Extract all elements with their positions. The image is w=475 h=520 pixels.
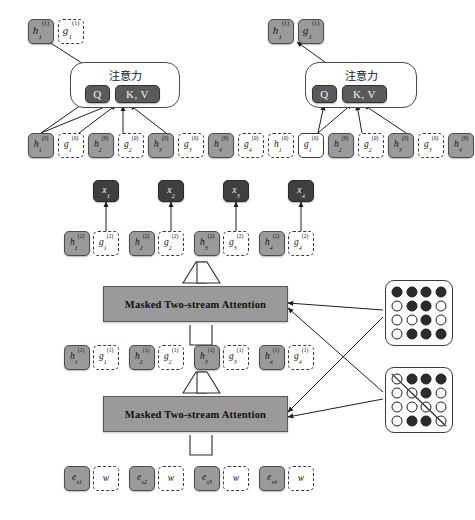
masked-two-stream-attention-lower[interactable]: Masked Two-stream Attention: [103, 396, 288, 432]
mask-dot-filled-icon: [421, 301, 432, 312]
query-out-g1: g1(1): [298, 19, 324, 44]
query-in-h4: h4(0): [448, 133, 474, 158]
mask-dot-empty-icon: [435, 315, 446, 326]
mask-cell-r1-c3: [420, 286, 433, 298]
mask-cell-r3-c1: [391, 314, 404, 326]
layer2-h2: h2(2): [129, 231, 155, 256]
query-mask-grid: [391, 373, 447, 427]
mask-cell-r3-c4: [435, 314, 448, 326]
mask-cell-r4-c1: [391, 328, 404, 340]
mask-dot-filled-icon: [406, 329, 417, 340]
mask-dot-empty-icon: [406, 402, 417, 413]
content-mask-grid: [391, 286, 447, 340]
mask-cell-r3-c1: [391, 401, 404, 413]
content-kv-box: K, V: [115, 85, 160, 103]
mask-dot-filled-icon: [421, 329, 432, 340]
query-in-h3: h3(0): [388, 133, 414, 158]
mask-cell-r3-c2: [406, 401, 419, 413]
mask-cell-r1-c3: [420, 373, 433, 385]
masked-two-stream-attention-upper[interactable]: Masked Two-stream Attention: [103, 286, 288, 322]
layer2-g4: g4(2): [288, 231, 314, 256]
layer1-h3: h3(1): [194, 345, 220, 370]
query-in-h1: h1(0): [268, 133, 294, 158]
embedding-w-4: w: [288, 466, 314, 491]
mask-cell-r2-c3: [420, 300, 433, 312]
layer1-g3: g3(1): [223, 345, 249, 370]
layer2-h3: h3(2): [194, 231, 220, 256]
mask-cell-r4-c2: [406, 328, 419, 340]
mask-dot-filled-icon: [421, 315, 432, 326]
content-in-h4: h4(0): [208, 133, 234, 158]
layer2-g1: g1(2): [93, 231, 119, 256]
mask-cell-r2-c2: [406, 387, 419, 399]
mask-cell-r1-c4: [435, 373, 448, 385]
mask-cell-r4-c2: [406, 415, 419, 427]
layer1-g1: g1(1): [93, 345, 119, 370]
layer1-h2: h2(1): [129, 345, 155, 370]
mask-dot-filled-icon: [421, 374, 432, 385]
query-in-g3: g3(0): [418, 133, 444, 158]
output-token-x2: x2: [158, 180, 184, 202]
mask-cell-r2-c3: [420, 387, 433, 399]
mask-cell-r3-c3: [420, 314, 433, 326]
content-stream-mask[interactable]: [385, 280, 453, 346]
mask-dot-filled-icon: [421, 287, 432, 298]
content-in-g1: g1(0): [58, 133, 84, 158]
mask-cell-r1-c1: [391, 373, 404, 385]
mask-dot-empty-icon: [435, 301, 446, 312]
mask-dot-empty-icon: [392, 416, 403, 427]
query-q-box: Q: [312, 85, 337, 103]
mask-cell-r4-c4: [435, 415, 448, 427]
mask-dot-empty-icon: [392, 388, 403, 399]
mask-dot-filled-icon: [406, 416, 417, 427]
figure-canvas: 注意力 Q K, V h1(1) g1(1) h1(0) g1(0) h2(0)…: [0, 0, 475, 520]
mask-dot-empty-icon: [392, 402, 403, 413]
content-in-g4: g4(0): [238, 133, 264, 158]
mask-cell-r2-c4: [435, 387, 448, 399]
embedding-e-x2: ex2: [129, 466, 155, 491]
mask-cell-r3-c4: [435, 401, 448, 413]
mask-cell-r2-c4: [435, 300, 448, 312]
output-token-x3: x3: [223, 180, 249, 202]
mask-cell-r4-c3: [420, 328, 433, 340]
query-stream-mask[interactable]: [385, 367, 453, 433]
mask-cell-r2-c1: [391, 387, 404, 399]
query-attention-label: 注意力: [305, 67, 417, 83]
layer1-g2: g2(1): [158, 345, 184, 370]
mask-dot-filled-icon: [392, 287, 403, 298]
content-attention-label: 注意力: [70, 67, 180, 83]
mask-dot-empty-icon: [421, 402, 432, 413]
layer2-g2: g2(2): [158, 231, 184, 256]
mask-cell-r1-c1: [391, 286, 404, 298]
mask-dot-empty-icon: [406, 315, 417, 326]
mask-dot-empty-icon: [435, 416, 446, 427]
content-q-box: Q: [85, 85, 110, 103]
mask-cell-r1-c2: [406, 286, 419, 298]
mask-dot-empty-icon: [435, 388, 446, 399]
embedding-e-x3: ex3: [194, 466, 220, 491]
mask-dot-empty-icon: [392, 301, 403, 312]
content-out-g1: g1(1): [58, 19, 84, 44]
layer2-h1: h1(2): [64, 231, 90, 256]
content-out-h1: h1(1): [28, 19, 54, 44]
content-in-g3: g3(0): [178, 133, 204, 158]
mask-dot-filled-icon: [435, 374, 446, 385]
mask-dot-filled-icon: [406, 287, 417, 298]
mask-dot-empty-icon: [392, 315, 403, 326]
embedding-e-x4: ex4: [259, 466, 285, 491]
mask-cell-r2-c2: [406, 300, 419, 312]
query-kv-box: K, V: [342, 85, 387, 103]
mask-cell-r4-c3: [420, 415, 433, 427]
content-in-h2: h2(0): [88, 133, 114, 158]
mask-dot-filled-icon: [406, 301, 417, 312]
content-in-g2: g2(0): [118, 133, 144, 158]
query-out-h1: h1(1): [268, 19, 294, 44]
mask-dot-filled-icon: [421, 416, 432, 427]
mask-cell-r3-c2: [406, 314, 419, 326]
layer2-h4: h4(2): [259, 231, 285, 256]
layer2-g3: g3(2): [223, 231, 249, 256]
content-in-h1: h1(0): [28, 133, 54, 158]
embedding-e-x1: ex1: [64, 466, 90, 491]
query-in-g2: g2(0): [358, 133, 384, 158]
mask-cell-r4-c1: [391, 415, 404, 427]
